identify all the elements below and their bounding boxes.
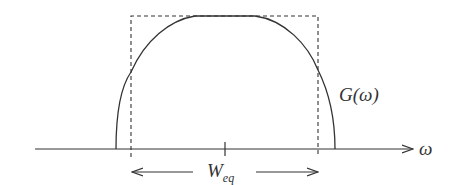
- width-label: Weq: [207, 160, 234, 185]
- bandwidth-diagram: [0, 0, 455, 185]
- axis-label: ω: [419, 138, 432, 160]
- equivalent-rectangle: [131, 16, 318, 157]
- width-label-sub: eq: [223, 171, 234, 185]
- width-label-main: W: [207, 160, 223, 181]
- axis-label-text: ω: [419, 138, 432, 159]
- g-omega-curve: [116, 16, 335, 149]
- curve-label-text: G(ω): [339, 84, 379, 105]
- curve-label: G(ω): [339, 84, 379, 106]
